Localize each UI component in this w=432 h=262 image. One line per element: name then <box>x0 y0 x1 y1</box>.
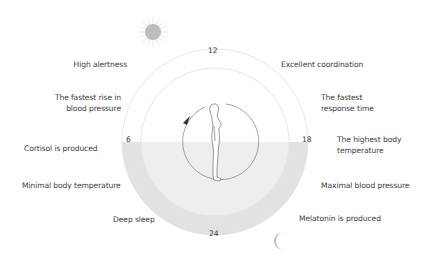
hour-12-label: 12 <box>208 46 218 55</box>
label-minimal-body-temp: Minimal body temperature <box>22 181 121 192</box>
label-line: The highest body <box>337 135 401 146</box>
label-line: blood pressure <box>55 104 121 115</box>
label-line: The fastest rise in <box>55 93 121 104</box>
label-maximal-blood-pressure: Maximal blood pressure <box>321 181 409 192</box>
label-fastest-rise-blood-pressure: The fastest rise in blood pressure <box>55 93 121 114</box>
label-melatonin: Melatonin is produced <box>299 214 381 225</box>
label-excellent-coordination: Excellent coordination <box>281 60 363 71</box>
hour-18-label: 18 <box>302 135 312 144</box>
label-line: The fastest <box>321 93 374 104</box>
sun-icon <box>138 17 168 47</box>
label-line: temperature <box>337 146 401 157</box>
label-highest-body-temp: The highest body temperature <box>337 135 401 156</box>
label-deep-sleep: Deep sleep <box>113 215 155 226</box>
moon-icon <box>274 232 283 250</box>
label-cortisol: Cortisol is produced <box>24 144 98 155</box>
label-fastest-response-time: The fastest response time <box>321 93 374 114</box>
hour-24-label: 24 <box>209 229 219 238</box>
label-high-alertness: High alertness <box>74 60 127 71</box>
label-line: response time <box>321 104 374 115</box>
hour-6-label: 6 <box>126 135 131 144</box>
